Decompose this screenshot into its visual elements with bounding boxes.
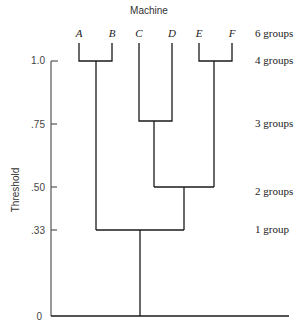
- tick-label-0-33: .33: [31, 225, 45, 236]
- branch-ef: [199, 43, 232, 61]
- group-label-6: 6 groups: [255, 27, 293, 39]
- branch-ab: [79, 43, 112, 61]
- leaf-label-b: B: [109, 27, 116, 39]
- dendrogram: Machine A B C D E F 6 groups 4 groups 3 …: [0, 0, 304, 326]
- leaf-label-d: D: [167, 27, 176, 39]
- branch-cd: [139, 43, 172, 121]
- leaf-label-f: F: [228, 27, 236, 39]
- leaf-label-c: C: [135, 27, 143, 39]
- chart-title: Machine: [130, 5, 168, 16]
- tick-label-0: 0: [36, 311, 42, 322]
- tick-label-0-75: .75: [31, 119, 45, 130]
- group-label-4: 4 groups: [255, 54, 293, 66]
- group-label-2: 2 groups: [255, 185, 293, 197]
- group-label-1: 1 group: [255, 223, 289, 235]
- tick-label-1-0: 1.0: [31, 55, 45, 66]
- group-label-3: 3 groups: [255, 117, 293, 129]
- leaf-label-a: A: [75, 27, 83, 39]
- leaf-label-e: E: [195, 27, 203, 39]
- tick-label-0-50: .50: [31, 182, 45, 193]
- y-axis-label: Threshold: [10, 168, 21, 212]
